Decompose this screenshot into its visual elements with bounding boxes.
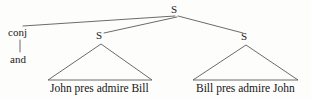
node-root-s: S — [171, 4, 177, 15]
edge-root-to-left-s — [104, 17, 177, 33]
terminal-left-clause: John pres admire Bill — [50, 82, 149, 94]
syntax-tree-figure: S conj and S S John pres admire Bill Bil… — [0, 0, 311, 100]
terminal-right-clause: Bill pres admire John — [196, 82, 295, 94]
edge-root-to-conj — [23, 16, 175, 26]
right-triangle — [193, 45, 298, 80]
node-right-s: S — [241, 31, 247, 42]
left-triangle — [48, 44, 152, 80]
node-conj-word: and — [10, 54, 26, 65]
node-conj-category: conj — [8, 27, 27, 38]
node-left-s: S — [96, 30, 102, 41]
edge-root-to-right-s — [178, 16, 243, 33]
